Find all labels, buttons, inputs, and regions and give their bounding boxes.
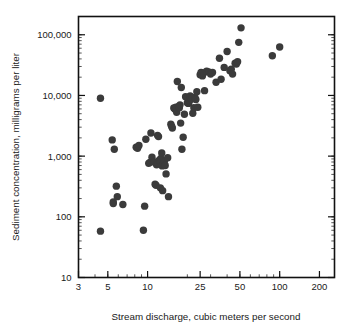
y-tick-label: 100 [56,211,72,222]
data-point [135,142,142,149]
y-tick-label: 1,000 [48,151,72,162]
data-point [142,136,149,143]
data-point [141,202,148,209]
data-point [178,146,185,153]
chart-canvas: 35102550100200 101001,00010,000100,000 S… [0,0,350,331]
data-point [223,48,230,55]
y-axis-title: Sediment concentration, milligrams per l… [10,52,21,241]
data-point [217,76,224,83]
x-tick-label: 200 [312,281,328,292]
data-point [113,182,120,189]
data-point [237,24,244,31]
data-point [159,187,166,194]
data-point [269,52,276,59]
data-point [114,193,121,200]
x-tick-label: 10 [142,281,153,292]
data-point [110,200,117,207]
data-point [234,58,241,65]
data-point [192,96,199,103]
data-point [178,84,185,91]
data-point [97,227,104,234]
data-point [194,104,201,111]
data-point [176,101,183,108]
data-point [209,69,216,76]
data-point [201,87,208,94]
data-point [164,154,171,161]
data-point [155,133,162,140]
x-axis-title: Stream discharge, cubic meters per secon… [112,311,301,322]
data-point [177,119,184,126]
x-tick-label: 50 [235,281,246,292]
data-point [276,43,283,50]
data-point [111,146,118,153]
x-tick-label: 25 [195,281,206,292]
data-point [193,88,200,95]
data-point [229,70,236,77]
data-point [119,201,126,208]
y-tick-label: 10,000 [42,90,71,101]
data-point [162,162,169,169]
chart-background [0,0,350,331]
data-point [97,95,104,102]
x-tick-label: 3 [76,281,81,292]
data-point [235,39,242,46]
data-point [162,170,169,177]
data-point [181,111,188,118]
data-point [169,124,176,131]
data-point [165,193,172,200]
data-point [179,134,186,141]
data-point [140,227,147,234]
x-tick-label: 5 [105,281,110,292]
data-point [109,136,116,143]
y-tick-label: 10 [61,272,72,283]
data-point [147,129,154,136]
data-point [174,78,181,85]
scatter-plot-figure: 35102550100200 101001,00010,000100,000 S… [0,0,350,331]
y-tick-label: 100,000 [37,29,71,40]
x-tick-label: 100 [272,281,288,292]
data-point [216,55,223,62]
data-point [158,149,165,156]
